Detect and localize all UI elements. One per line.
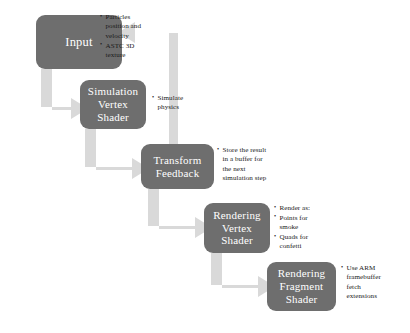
node-rendfragment-line-2: Shader — [286, 293, 318, 306]
node-rendfragment-line-0: Rendering — [278, 267, 326, 280]
arrow-rendering-vertex-to-rendering-fragment — [211, 253, 275, 297]
node-simulation-line-2: Shader — [97, 111, 129, 124]
note-simulation-vertex-shader: Simulate physics — [152, 94, 198, 113]
node-simulation-vertex-shader[interactable]: Simulation Vertex Shader — [80, 80, 146, 129]
note-rendvertex-item-0: Render as: — [274, 204, 320, 213]
node-rendfragment-line-1: Fragment — [280, 280, 324, 293]
node-simulation-line-1: Vertex — [98, 98, 128, 111]
note-simulation-item-0: Simulate physics — [152, 94, 198, 113]
note-input-item-0: Particles position and velocity — [100, 13, 146, 41]
node-simulation-line-0: Simulation — [88, 85, 138, 98]
node-transform-line-1: Feedback — [156, 167, 200, 180]
node-rendvertex-line-2: Shader — [221, 234, 253, 247]
note-transform-feedback: Store the result in a buffer for the nex… — [217, 146, 273, 184]
node-rendering-fragment-shader[interactable]: Rendering Fragment Shader — [267, 262, 336, 311]
note-rendering-fragment-shader: Use ARM framebuffer fetch extensions — [341, 264, 389, 302]
note-rendvertex-item-1: Points for smoke — [274, 214, 320, 233]
node-rendvertex-line-1: Vertex — [222, 222, 252, 235]
note-rendering-vertex-shader: Render as: Points for smoke Quads for co… — [274, 204, 320, 252]
note-rendfragment-item-0: Use ARM framebuffer fetch extensions — [341, 264, 389, 301]
note-rendvertex-item-2: Quads for confetti — [274, 233, 320, 252]
node-input-line-0: Input — [65, 35, 92, 50]
arrow-simulation-to-transform — [85, 129, 149, 179]
node-transform-line-0: Transform — [154, 154, 202, 167]
node-rendering-vertex-shader[interactable]: Rendering Vertex Shader — [204, 203, 270, 253]
note-input: Particles position and velocity ASTC 3D … — [100, 13, 146, 61]
arrow-transform-to-rendering-vertex — [148, 189, 212, 238]
note-input-item-1: ASTC 3D texture — [100, 42, 146, 61]
node-transform-feedback[interactable]: Transform Feedback — [141, 144, 214, 189]
note-transform-item-0: Store the result in a buffer for the nex… — [217, 146, 273, 183]
node-rendvertex-line-0: Rendering — [213, 209, 261, 222]
pipeline-diagram: Input Simulation Vertex Shader Transform… — [0, 0, 410, 333]
